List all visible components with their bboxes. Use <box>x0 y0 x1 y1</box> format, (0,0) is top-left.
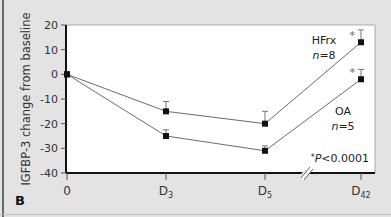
x-tick-label: D5 <box>258 184 272 200</box>
significance-star: * <box>350 29 356 42</box>
data-point-marker <box>163 108 169 114</box>
y-tick-label: -20 <box>40 118 58 131</box>
y-tick-label: -10 <box>40 93 58 106</box>
y-axis: 20100-10-20-30-40 <box>40 19 66 180</box>
data-point-marker <box>262 148 268 154</box>
x-tick-label: D42 <box>351 184 370 200</box>
significance-star: * <box>350 66 356 79</box>
y-tick-label: -30 <box>40 142 58 155</box>
legend-oa-name: OA <box>335 105 351 118</box>
data-point-marker <box>358 76 364 82</box>
y-tick-label: 20 <box>44 19 58 32</box>
y-tick-label: -40 <box>40 167 58 180</box>
y-tick-label: 10 <box>44 44 58 57</box>
data-point-marker <box>358 39 364 45</box>
legend-hfrx-name: HFrx <box>312 34 337 47</box>
x-tick-label: 0 <box>63 184 71 198</box>
legend-hfrx-n: n=8 <box>312 49 335 62</box>
x-tick-label: D3 <box>159 184 173 200</box>
panel-label: B <box>15 193 25 208</box>
y-tick-label: 0 <box>51 68 58 81</box>
line-chart: 20100-10-20-30-40 0D3D5D42 ** IGFBP-3 ch… <box>0 0 391 217</box>
legend-oa-n: n=5 <box>331 120 354 133</box>
data-point-marker <box>262 121 268 127</box>
significance-note: *P<0.0001 <box>311 152 369 165</box>
data-point-marker <box>163 133 169 139</box>
data-point-marker <box>64 71 70 77</box>
plot-area <box>66 25 375 173</box>
y-axis-label: IGFBP-3 change from baseline <box>19 12 33 185</box>
